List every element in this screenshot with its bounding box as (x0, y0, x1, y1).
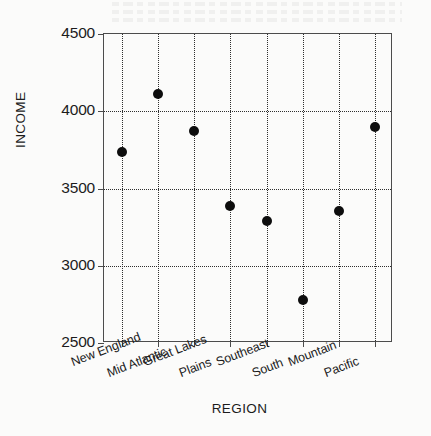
x-axis-title: REGION (0, 401, 431, 416)
tick-mark-y (98, 111, 104, 112)
tick-mark-x (303, 341, 304, 347)
gridline-vertical (230, 34, 231, 341)
tick-mark-x (230, 341, 231, 347)
x-category-label: Plains (177, 355, 213, 380)
y-axis-title: INCOME (13, 92, 28, 148)
tick-mark-y (98, 266, 104, 267)
gridline-vertical (375, 34, 376, 341)
plot-area (103, 33, 392, 342)
data-point (189, 126, 199, 136)
data-point (262, 216, 272, 226)
data-point (225, 201, 235, 211)
x-category-label: South (250, 355, 285, 380)
gridline-horizontal (104, 189, 391, 190)
gridline-horizontal (104, 266, 391, 267)
tick-mark-y (98, 343, 104, 344)
tick-mark-x (194, 341, 195, 347)
x-category-label: Mountain (286, 338, 338, 369)
scatter-chart-figure: 25003000350040004500 New EnglandMid Atla… (0, 0, 431, 436)
gridline-vertical (267, 34, 268, 341)
gridline-vertical (339, 34, 340, 341)
data-point (117, 147, 127, 157)
y-tick-label: 4000 (61, 101, 95, 119)
tick-mark-x (267, 341, 268, 347)
gridline-vertical (194, 34, 195, 341)
y-axis-tick-labels: 25003000350040004500 (0, 33, 95, 342)
tick-mark-x (122, 341, 123, 347)
gridline-vertical (122, 34, 123, 341)
y-tick-label: 2500 (61, 333, 95, 351)
y-tick-label: 4500 (61, 24, 95, 42)
x-category-label: Mid Atlantic (105, 345, 169, 381)
tick-mark-x (339, 341, 340, 347)
data-point (153, 89, 163, 99)
tick-mark-x (158, 341, 159, 347)
x-category-label: Pacific (322, 354, 361, 380)
y-tick-label: 3000 (61, 256, 95, 274)
tick-mark-y (98, 34, 104, 35)
gridline-vertical (158, 34, 159, 341)
y-tick-label: 3500 (61, 179, 95, 197)
data-point (334, 206, 344, 216)
tick-mark-x (375, 341, 376, 347)
data-point (298, 295, 308, 305)
data-point (370, 122, 380, 132)
gridline-horizontal (104, 111, 391, 112)
tick-mark-y (98, 189, 104, 190)
